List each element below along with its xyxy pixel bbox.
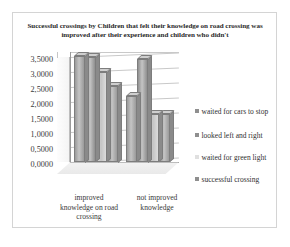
y-axis-tick-label: 2,5000 <box>30 85 53 94</box>
y-axis-tick-label: 0,0000 <box>30 160 53 169</box>
chart-side-wall <box>57 57 70 162</box>
bar-side <box>96 53 100 162</box>
legend-item: waited for cars to stop <box>195 107 290 116</box>
legend-item: looked left and right <box>195 131 290 140</box>
bar-face <box>74 56 85 163</box>
bar-side <box>107 68 111 162</box>
bar-side <box>118 82 122 162</box>
legend-item-label: waited for green light <box>202 153 267 162</box>
bar-side <box>148 55 152 162</box>
bar-face <box>126 96 137 162</box>
plot-area: 0,00000,50001,00001,50002,00002,50003,00… <box>57 57 179 187</box>
bar-side <box>159 110 163 162</box>
bar-side <box>137 92 141 162</box>
legend-item-label: successful crossing <box>202 175 260 184</box>
chart-title: Successful crossings by Children that fe… <box>27 22 263 41</box>
chart-frame: Successful crossings by Children that fe… <box>12 12 277 228</box>
bar-side <box>170 110 174 162</box>
y-axis-line <box>70 52 71 162</box>
y-axis-tick-label: 3,5000 <box>30 55 53 64</box>
x-axis-label: improved knowledge on road crossing <box>59 193 119 222</box>
y-axis-tick-label: 3,0000 <box>30 70 53 79</box>
chart-floor <box>57 162 179 174</box>
bar-side <box>85 52 89 162</box>
bar <box>74 56 85 163</box>
y-axis-tick-label: 2,0000 <box>30 100 53 109</box>
legend-swatch-icon <box>195 155 199 159</box>
legend-item: successful crossing <box>195 175 290 184</box>
legend-swatch-icon <box>195 109 199 113</box>
legend-item: waited for green light <box>195 153 290 162</box>
legend-swatch-icon <box>195 133 199 137</box>
legend-item-label: looked left and right <box>202 131 263 140</box>
y-axis-tick-label: 0,5000 <box>30 145 53 154</box>
x-axis-label: not improved knowledge <box>127 193 187 212</box>
bar <box>126 96 137 162</box>
x-axis-category-labels: improved knowledge on road crossing not … <box>53 193 193 237</box>
legend-item-label: waited for cars to stop <box>202 107 269 116</box>
legend-swatch-icon <box>195 177 199 181</box>
y-axis-tick-label: 1,0000 <box>30 130 53 139</box>
y-axis-tick-label: 1,5000 <box>30 115 53 124</box>
